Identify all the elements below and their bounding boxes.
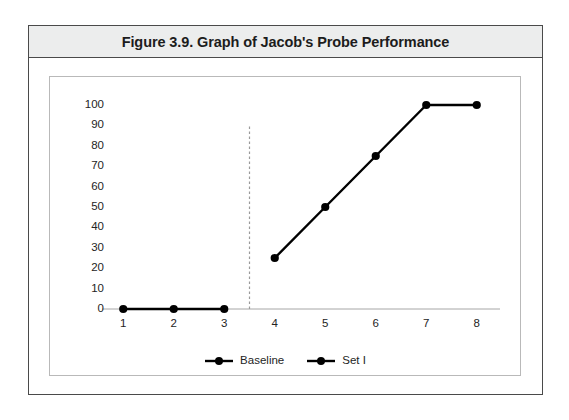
y-axis-tick-label: 100: [74, 99, 104, 111]
x-axis-tick-label: 1: [111, 318, 135, 330]
y-axis-tick-label: 50: [74, 201, 104, 213]
chart-legend: BaselineSet I: [50, 355, 520, 367]
legend-label: Set I: [342, 355, 366, 367]
x-axis-tick-label: 5: [313, 318, 337, 330]
y-axis-tick-label: 70: [74, 160, 104, 172]
legend-item-set-i[interactable]: Set I: [306, 355, 366, 367]
legend-item-baseline[interactable]: Baseline: [204, 355, 284, 367]
y-axis-tick-label: 20: [74, 262, 104, 274]
y-axis-tick-label: 40: [74, 222, 104, 234]
y-axis-tick-label: 0: [74, 303, 104, 315]
legend-label: Baseline: [240, 355, 284, 367]
page-title: Figure 3.9. Graph of Jacob's Probe Perfo…: [122, 34, 450, 50]
y-axis-tick-label: 30: [74, 242, 104, 254]
legend-marker-icon: [306, 355, 336, 367]
legend-marker-icon: [204, 355, 234, 367]
x-axis-tick-label: 8: [465, 318, 489, 330]
y-axis-tick-label: 10: [74, 283, 104, 295]
plot-area: 0102030405060708090100 12345678: [50, 77, 520, 375]
x-axis-tick-label: 4: [263, 318, 287, 330]
figure-title-band: Figure 3.9. Graph of Jacob's Probe Perfo…: [29, 26, 542, 58]
data-point-baseline-3[interactable]: [220, 305, 228, 313]
data-point-set-i-7[interactable]: [422, 101, 430, 109]
x-axis-tick-label: 2: [162, 318, 186, 330]
chart-panel: 0102030405060708090100 12345678 Baseline…: [49, 76, 521, 376]
y-axis-tick-label: 90: [74, 120, 104, 132]
x-axis-tick-label: 6: [364, 318, 388, 330]
data-point-set-i-4[interactable]: [271, 254, 279, 262]
figure-frame: Figure 3.9. Graph of Jacob's Probe Perfo…: [28, 25, 543, 395]
data-point-baseline-1[interactable]: [119, 305, 127, 313]
data-point-set-i-8[interactable]: [473, 101, 481, 109]
y-axis-tick-label: 80: [74, 140, 104, 152]
y-axis-tick-label: 60: [74, 181, 104, 193]
data-point-set-i-5[interactable]: [321, 203, 329, 211]
x-axis-tick-label: 3: [212, 318, 236, 330]
x-axis-tick-label: 7: [414, 318, 438, 330]
data-point-baseline-2[interactable]: [170, 305, 178, 313]
data-point-set-i-6[interactable]: [372, 152, 380, 160]
series-line-set-i: [275, 105, 477, 258]
x-axis: 12345678: [50, 318, 520, 334]
